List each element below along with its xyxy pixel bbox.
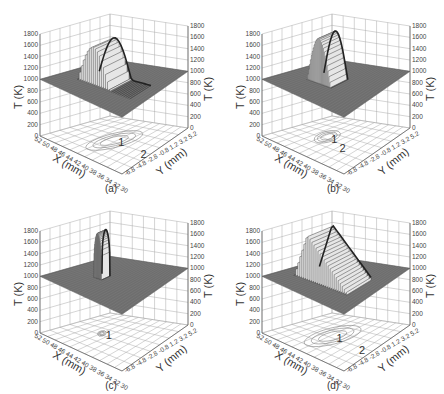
z-axis-label-right: T (K) xyxy=(202,274,214,298)
z-tick-left: 400 xyxy=(249,109,260,116)
z-tick-left: 1200 xyxy=(246,261,261,268)
z-axis-label-right: T (K) xyxy=(424,274,436,298)
z-tick-left: 400 xyxy=(27,306,38,313)
z-tick-left: 1800 xyxy=(24,30,39,37)
z-tick-left: 400 xyxy=(249,306,260,313)
panel-caption: (a) xyxy=(0,183,222,194)
z-tick-right: 200 xyxy=(190,113,201,120)
z-tick-right: 1000 xyxy=(190,264,205,271)
panel-c: 0020020040040060060080080010001000120012… xyxy=(0,197,222,394)
surface-plot: 0020020040040060060080080010001000120012… xyxy=(222,197,444,394)
z-tick-left: 600 xyxy=(27,295,38,302)
z-tick-right: 200 xyxy=(412,113,423,120)
z-tick-right: 600 xyxy=(190,287,201,294)
z-tick-left: 800 xyxy=(27,284,38,291)
figure-grid: 0020020040040060060080080010001000120012… xyxy=(0,0,444,394)
z-tick-right: 1600 xyxy=(190,230,205,237)
z-tick-right: 1400 xyxy=(412,45,427,52)
z-tick-left: 1200 xyxy=(24,64,39,71)
z-tick-left: 1400 xyxy=(24,250,39,257)
z-tick-left: 200 xyxy=(249,121,260,128)
z-axis-label-right: T (K) xyxy=(202,77,214,101)
z-tick-right: 1000 xyxy=(412,264,427,271)
z-tick-right: 400 xyxy=(412,101,423,108)
z-axis-label-right: T (K) xyxy=(424,77,436,101)
z-tick-left: 1600 xyxy=(246,238,261,245)
z-tick-left: 200 xyxy=(27,121,38,128)
panel-caption: (d) xyxy=(222,380,444,391)
z-tick-left: 600 xyxy=(249,295,260,302)
z-tick-right: 1200 xyxy=(190,56,205,63)
z-tick-right: 200 xyxy=(412,310,423,317)
z-tick-right: 1400 xyxy=(412,242,427,249)
z-tick-left: 1800 xyxy=(24,227,39,234)
z-tick-right: 1200 xyxy=(412,56,427,63)
z-tick-right: 400 xyxy=(190,298,201,305)
z-tick-left: 1400 xyxy=(246,53,261,60)
z-tick-left: 1000 xyxy=(246,75,261,82)
z-tick-right: 1000 xyxy=(190,67,205,74)
z-tick-right: 1800 xyxy=(412,219,427,226)
z-tick-left: 800 xyxy=(27,87,38,94)
z-tick-right: 1400 xyxy=(190,242,205,249)
z-axis-label-left: T (K) xyxy=(12,85,24,109)
contour-label-2: 2 xyxy=(359,344,365,356)
panel-b: 0020020040040060060080080010001000120012… xyxy=(222,0,444,197)
z-tick-right: 1400 xyxy=(190,45,205,52)
z-tick-right: 1600 xyxy=(412,33,427,40)
surface-plot: 0020020040040060060080080010001000120012… xyxy=(0,197,222,394)
z-tick-right: 1200 xyxy=(412,253,427,260)
z-tick-right: 400 xyxy=(412,298,423,305)
z-tick-left: 1800 xyxy=(246,227,261,234)
contour-label-1: 1 xyxy=(106,329,112,341)
z-tick-left: 1400 xyxy=(24,53,39,60)
contour-label-2: 2 xyxy=(339,142,345,154)
z-tick-right: 800 xyxy=(412,79,423,86)
z-tick-right: 600 xyxy=(412,90,423,97)
z-tick-right: 200 xyxy=(190,310,201,317)
z-tick-right: 1800 xyxy=(412,22,427,29)
contour-label-1: 1 xyxy=(337,332,343,344)
z-tick-left: 1000 xyxy=(24,75,39,82)
z-tick-right: 1800 xyxy=(190,219,205,226)
contour-label-1: 1 xyxy=(118,136,124,148)
z-tick-right: 1600 xyxy=(190,33,205,40)
z-tick-right: 400 xyxy=(190,101,201,108)
z-tick-right: 1800 xyxy=(190,22,205,29)
z-tick-left: 600 xyxy=(249,98,260,105)
panel-a: 0020020040040060060080080010001000120012… xyxy=(0,0,222,197)
z-tick-right: 600 xyxy=(190,90,201,97)
z-tick-left: 1400 xyxy=(246,250,261,257)
z-tick-right: 600 xyxy=(412,287,423,294)
surface-plot: 0020020040040060060080080010001000120012… xyxy=(0,0,222,197)
z-tick-right: 1600 xyxy=(412,230,427,237)
z-tick-left: 1000 xyxy=(24,272,39,279)
z-tick-left: 1000 xyxy=(246,272,261,279)
z-axis-label-left: T (K) xyxy=(12,282,24,306)
z-tick-right: 1200 xyxy=(190,253,205,260)
z-tick-left: 400 xyxy=(27,109,38,116)
z-tick-left: 800 xyxy=(249,87,260,94)
z-tick-right: 800 xyxy=(190,79,201,86)
z-axis-label-left: T (K) xyxy=(234,282,246,306)
surface-plot: 0020020040040060060080080010001000120012… xyxy=(222,0,444,197)
z-tick-left: 1600 xyxy=(246,41,261,48)
panel-caption: (b) xyxy=(222,183,444,194)
z-tick-left: 200 xyxy=(249,318,260,325)
panel-d: 0020020040040060060080080010001000120012… xyxy=(222,197,444,394)
z-tick-left: 200 xyxy=(27,318,38,325)
contour-label-1: 1 xyxy=(331,133,337,145)
z-tick-left: 800 xyxy=(249,284,260,291)
z-tick-right: 800 xyxy=(412,276,423,283)
z-axis-label-left: T (K) xyxy=(234,85,246,109)
panel-caption: (c) xyxy=(0,380,222,391)
z-tick-left: 1600 xyxy=(24,41,39,48)
z-tick-left: 1800 xyxy=(246,30,261,37)
z-tick-left: 1200 xyxy=(246,64,261,71)
z-tick-left: 600 xyxy=(27,98,38,105)
z-tick-right: 1000 xyxy=(412,67,427,74)
z-tick-left: 1600 xyxy=(24,238,39,245)
z-tick-left: 1200 xyxy=(24,261,39,268)
z-tick-right: 800 xyxy=(190,276,201,283)
